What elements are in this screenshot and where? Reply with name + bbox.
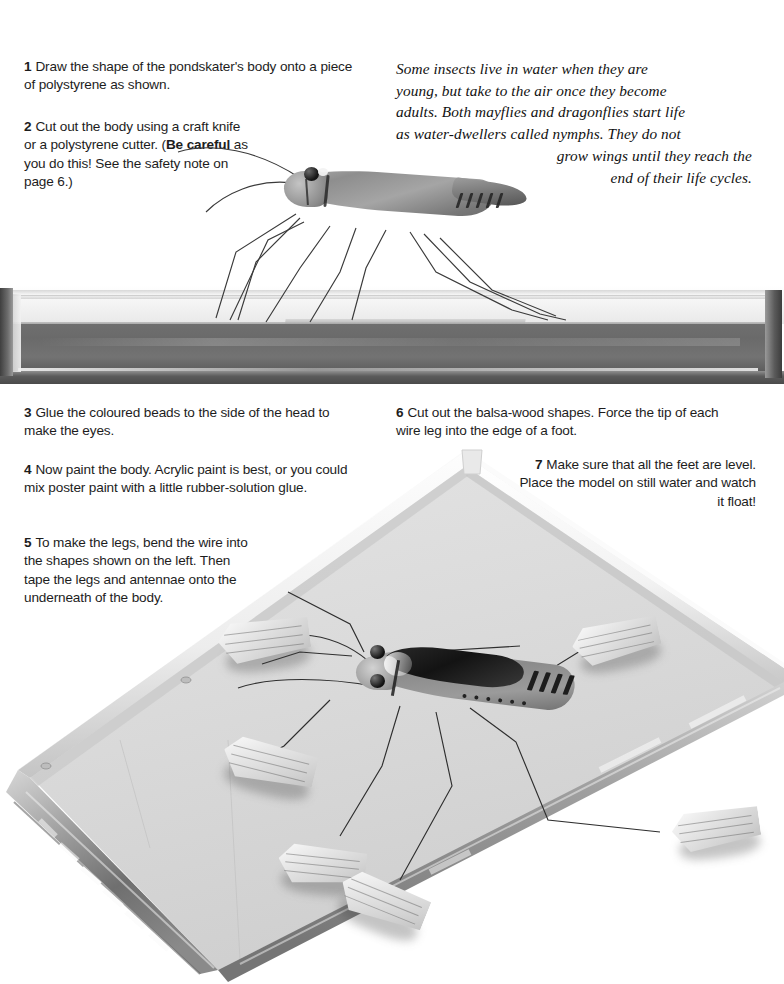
- model-pondskater-top: [332, 626, 622, 734]
- model-bead-eye-left: [370, 645, 385, 659]
- model-bead-eye-right: [370, 674, 385, 688]
- model-top-wires: [0, 0, 784, 984]
- leg-top-rear-centre: [400, 712, 452, 880]
- page-canvas: 1Draw the shape of the pondskater's body…: [0, 0, 784, 984]
